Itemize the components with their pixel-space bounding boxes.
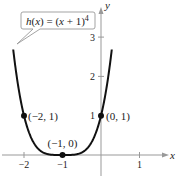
point-label: (−2, 1) [28, 110, 58, 123]
point-marker [60, 152, 66, 158]
y-tick-label: 3 [90, 32, 95, 43]
function-label: h(x) = (x + 1)4 [26, 14, 89, 28]
y-axis-label: y [104, 0, 110, 11]
x-tick-label: −2 [19, 159, 30, 170]
labeled-points: (−2, 1)(−1, 0)(0, 1) [21, 110, 130, 158]
x-axis-arrow-icon [162, 153, 169, 158]
point-label: (0, 1) [106, 110, 130, 123]
x-axis-label: x [169, 149, 175, 161]
x-tick-label: −1 [57, 159, 68, 170]
ticks: −2−11123 [19, 32, 142, 170]
y-axis-arrow-icon [99, 7, 104, 14]
x-tick-label: 1 [137, 159, 142, 170]
point-marker [21, 113, 27, 119]
point-marker [98, 113, 104, 119]
y-tick-label: 2 [90, 71, 95, 82]
point-label: (−1, 0) [47, 137, 77, 150]
function-callout: h(x) = (x + 1)4 [17, 12, 95, 44]
y-tick-label: 1 [90, 110, 95, 121]
function-graph: −2−11123 x y (−2, 1)(−1, 0)(0, 1) h(x) =… [0, 0, 176, 178]
